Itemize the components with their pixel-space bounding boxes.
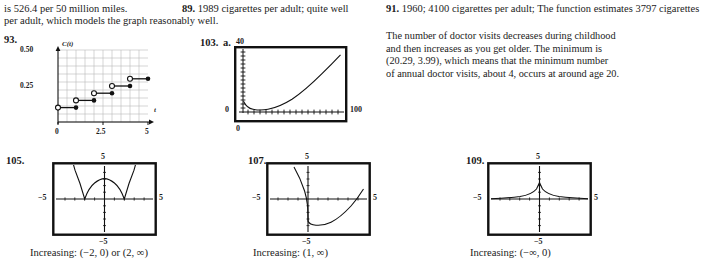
figure-107-svg <box>266 162 371 236</box>
figure-93-svg <box>36 44 161 139</box>
answer-91-number: 91. <box>386 3 399 14</box>
calculator-screen-border <box>235 47 346 121</box>
figure-107-top-label: 5 <box>305 152 309 161</box>
problem-93-label: 93. <box>4 34 17 45</box>
figure-93-ytick-025: 0.25 <box>20 81 33 90</box>
figure-93-xtick-0: 0 <box>55 127 59 136</box>
figure-105-calculator-window: 5 −5 5 −5 <box>52 162 157 236</box>
figure-109-left-label: −5 <box>473 193 482 202</box>
figure-103a-bottom-left-label: 0 <box>236 124 240 133</box>
figure-105-right-label: 5 <box>159 193 163 202</box>
figure-103a-top-label: 40 <box>236 37 244 46</box>
x-axis-arrow-icon <box>149 120 154 125</box>
figure-93-x-axis-label: t <box>154 106 156 114</box>
answer-89-text: 1989 cigarettes per adult; quite well <box>198 3 349 14</box>
answer-89-wrap-line2: per adult, which models the graph reason… <box>4 15 254 27</box>
figure-109-bottom-label: −5 <box>534 237 543 246</box>
answer-89-continuation: is 526.4 per 50 million miles. <box>4 3 180 15</box>
figure-93-step-chart: C(t) t 0.50 0.25 0 2.5 5 <box>36 44 161 139</box>
figure-109-svg <box>487 162 592 236</box>
figure-93-xtick-5: 5 <box>145 127 149 136</box>
figure-93-y-axis-label: C(t) <box>62 40 73 48</box>
figure-109-right-label: 5 <box>594 193 598 202</box>
figure-93-ytick-050: 0.50 <box>20 45 33 54</box>
figure-103a-calculator-window: 40 0 100 0 <box>234 46 348 124</box>
figure-107-left-label: −5 <box>252 193 261 202</box>
problem-109-label: 109. <box>466 155 484 166</box>
problem-105-caption: Increasing: (−2, 0) or (2, ∞) <box>30 247 148 258</box>
figure-105-top-label: 5 <box>101 152 105 161</box>
answer-89-line2: per adult, which models the graph reason… <box>4 15 218 26</box>
problem-109-caption: Increasing: (−∞, 0) <box>470 247 551 258</box>
problem-107-caption: Increasing: (1, ∞) <box>253 247 328 258</box>
doctor-visits-paragraph: The number of doctor visits decreases du… <box>386 30 708 80</box>
answer-91: 91. 1960; 4100 cigarettes per adult; The… <box>386 3 708 15</box>
chart-axes <box>58 50 150 124</box>
figure-103a-right-label: 100 <box>350 105 362 114</box>
figure-105-svg <box>52 162 157 236</box>
chart-gridlines <box>58 50 148 122</box>
problem-105-label: 105. <box>6 155 24 166</box>
paragraph-line-2: and then increases as you get older. The… <box>386 43 708 56</box>
y-axis-tickmarks <box>241 52 246 108</box>
figure-109-calculator-window: 5 −5 5 −5 <box>487 162 592 236</box>
paragraph-line-1: The number of doctor visits decreases du… <box>386 30 708 43</box>
paragraph-line-4: of annual doctor visits, about 4, occurs… <box>386 68 708 81</box>
problem-107-label: 107. <box>248 155 266 166</box>
paragraph-line-3: (20.29, 3.99), which means that the mini… <box>386 55 708 68</box>
figure-109-top-label: 5 <box>536 152 540 161</box>
figure-103a-svg <box>234 46 348 124</box>
answer-89-number: 89. <box>182 3 195 14</box>
answer-89: 89. 1989 cigarettes per adult; quite wel… <box>182 3 378 15</box>
answer-89-continuation-line1: is 526.4 per 50 million miles. <box>4 3 127 14</box>
problem-103-label: 103. <box>200 37 218 48</box>
figure-103a-left-label: 0 <box>225 105 229 114</box>
answer-91-text: 1960; 4100 cigarettes per adult; The fun… <box>402 3 700 14</box>
problem-103-part-label: a. <box>223 37 231 48</box>
figure-107-bottom-label: −5 <box>302 237 311 246</box>
figure-107-right-label: 5 <box>373 193 377 202</box>
y-axis-arrow-icon <box>56 46 61 51</box>
figure-105-bottom-label: −5 <box>99 237 108 246</box>
figure-93-xtick-25: 2.5 <box>96 127 105 136</box>
figure-105-left-label: −5 <box>38 193 47 202</box>
figure-107-calculator-window: 5 −5 5 −5 <box>266 162 371 236</box>
